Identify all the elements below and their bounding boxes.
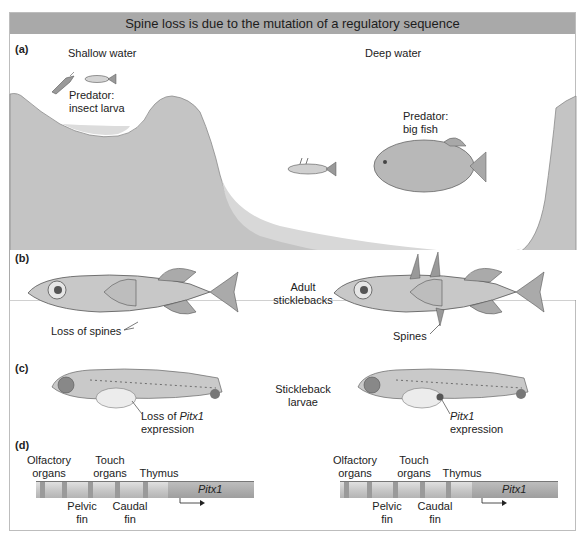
loss-of-prefix: Loss of: [141, 410, 180, 422]
panel-a-label: (a): [15, 43, 28, 55]
larva-no-pitx1-icon: [52, 369, 222, 408]
stickleback-deep-water-icon: [288, 158, 336, 176]
deep-water-label: Deep water: [365, 47, 421, 60]
pitx1-pointer: [442, 400, 450, 414]
thymus-enhancer: [446, 482, 451, 498]
left-pelvic-label-line1: Pelvic: [62, 500, 102, 513]
olfactory-enhancer: [344, 482, 349, 498]
shallow-water-label: Shallow water: [68, 47, 136, 60]
panel-d-label: (d): [15, 439, 29, 451]
adult-sticklebacks-label-line2: sticklebacks: [258, 294, 348, 307]
olfactory-enhancer: [40, 482, 45, 498]
spines-label: Spines: [393, 330, 427, 343]
pitx1-expression-label-line2: expression: [450, 423, 503, 436]
pelvic-enhancer: [367, 482, 372, 498]
panel-b-label: (b): [15, 252, 29, 264]
right-olfactory-label-line1: Olfactory: [330, 454, 380, 467]
right-olfactory-label-line2: organs: [330, 467, 380, 480]
right-touch-label-line2: organs: [392, 467, 436, 480]
right-touch-label-line1: Touch: [392, 454, 436, 467]
pitx1-gene-label: Pitx1: [198, 483, 222, 495]
right-pelvic-label-line1: Pelvic: [367, 500, 407, 513]
predator-insect-label-line2: insect larva: [69, 102, 125, 115]
left-touch-label-line1: Touch: [88, 454, 132, 467]
spines-pointer: [430, 324, 440, 334]
loss-pitx1-label-line2: expression: [141, 423, 194, 436]
left-caudal-label-line2: fin: [110, 513, 150, 526]
caudal-enhancer: [115, 482, 120, 498]
left-gene-bar: Pitx1: [36, 481, 254, 498]
pitx1-gene-label: Pitx1: [502, 483, 526, 495]
pitx1-expression-label-line1: Pitx1: [450, 410, 474, 423]
stickleback-larvae-label-line1: Stickleback: [258, 383, 348, 396]
left-olfactory-label-line1: Olfactory: [24, 454, 74, 467]
loss-of-spines-label: Loss of spines: [51, 325, 121, 338]
loss-pitx1-label-line1: Loss of Pitx1: [141, 410, 204, 423]
predator-insect-label-line1: Predator:: [69, 89, 114, 102]
predator-bigfish-label-line1: Predator:: [403, 110, 448, 123]
right-caudal-label-line1: Caudal: [415, 500, 455, 513]
adult-sticklebacks-label-line1: Adult: [268, 281, 338, 294]
touch-enhancer: [393, 482, 398, 498]
right-pelvic-label-line2: fin: [367, 513, 407, 526]
thymus-enhancer: [143, 482, 148, 498]
left-pelvic-label-line2: fin: [62, 513, 102, 526]
left-caudal-label-line1: Caudal: [110, 500, 150, 513]
pitx1-gene-name: Pitx1: [180, 410, 204, 422]
caudal-enhancer: [420, 482, 425, 498]
predator-bigfish-label-line2: big fish: [403, 123, 438, 136]
touch-enhancer: [88, 482, 93, 498]
small-stickleback-shallow-icon: [85, 74, 116, 84]
stickleback-larvae-label-line2: larvae: [258, 396, 348, 409]
left-olfactory-label-line2: organs: [24, 467, 74, 480]
right-thymus-label: Thymus: [440, 467, 484, 480]
right-gene-bar: Pitx1: [340, 481, 558, 498]
left-touch-label-line2: organs: [88, 467, 132, 480]
big-fish-predator-icon: [374, 138, 486, 192]
panel-c-label: (c): [15, 362, 28, 374]
right-caudal-label-line2: fin: [415, 513, 455, 526]
left-thymus-label: Thymus: [137, 467, 181, 480]
pelvic-enhancer-deleted: [62, 482, 67, 498]
